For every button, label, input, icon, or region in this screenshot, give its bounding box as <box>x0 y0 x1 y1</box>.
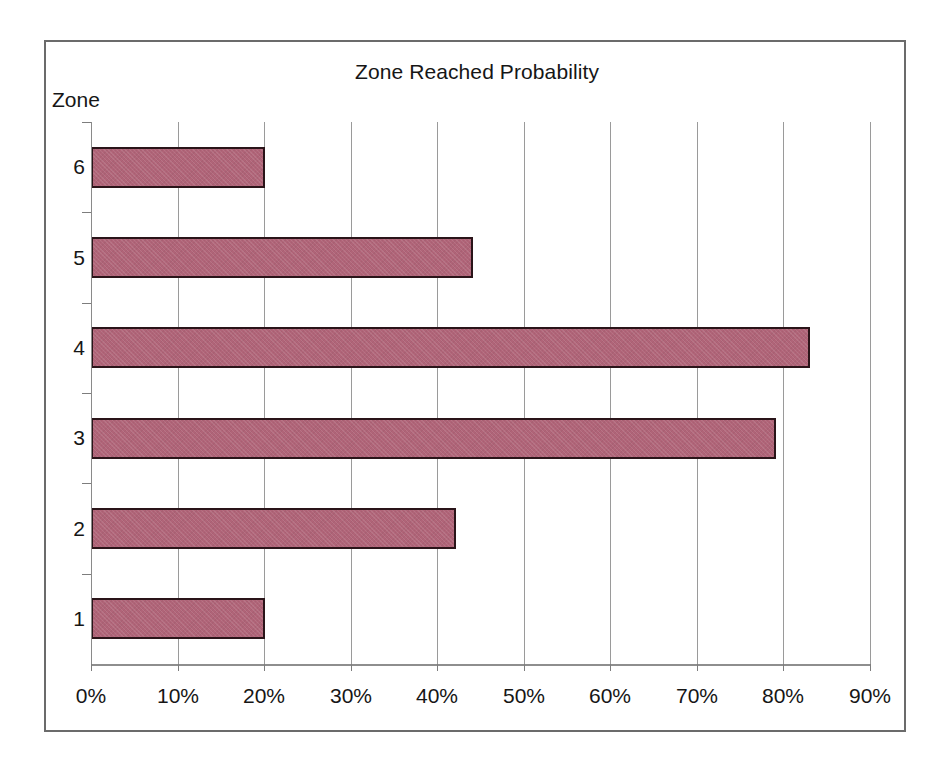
bar-zone-1[interactable] <box>91 598 265 639</box>
gridline-60 <box>610 122 611 664</box>
value-tick <box>610 664 611 671</box>
value-axis-label: 20% <box>229 684 299 708</box>
value-tick <box>91 664 92 671</box>
category-tick <box>82 393 91 394</box>
category-label-5: 5 <box>55 247 85 268</box>
chart-title: Zone Reached Probability <box>46 60 908 84</box>
category-label-3: 3 <box>55 427 85 448</box>
value-axis-label: 10% <box>143 684 213 708</box>
category-label-6: 6 <box>55 156 85 177</box>
category-tick <box>82 483 91 484</box>
category-axis-line <box>91 122 92 664</box>
category-tick <box>82 212 91 213</box>
gridline-20 <box>264 122 265 664</box>
value-tick <box>351 664 352 671</box>
category-axis-caption: Zone <box>52 88 100 112</box>
value-tick <box>783 664 784 671</box>
category-label-4: 4 <box>55 337 85 358</box>
value-tick <box>178 664 179 671</box>
value-axis-label: 70% <box>662 684 732 708</box>
gridline-50 <box>524 122 525 664</box>
value-tick <box>437 664 438 671</box>
value-axis-label: 30% <box>316 684 386 708</box>
value-axis-line <box>91 664 870 666</box>
category-tick <box>82 303 91 304</box>
value-tick <box>524 664 525 671</box>
gridline-80 <box>783 122 784 664</box>
value-axis-label: 0% <box>56 684 126 708</box>
category-label-2: 2 <box>55 518 85 539</box>
value-axis-label: 40% <box>402 684 472 708</box>
bar-zone-5[interactable] <box>91 237 473 278</box>
gridline-10 <box>178 122 179 664</box>
gridline-40 <box>437 122 438 664</box>
value-tick <box>264 664 265 671</box>
plot-area: 123456 <box>91 122 870 664</box>
value-axis-label: 60% <box>575 684 645 708</box>
value-tick <box>870 664 871 671</box>
category-label-1: 1 <box>55 608 85 629</box>
value-axis-label: 90% <box>835 684 905 708</box>
bar-zone-2[interactable] <box>91 508 456 549</box>
gridline-90 <box>870 122 871 664</box>
value-axis-label: 80% <box>748 684 818 708</box>
gridline-70 <box>697 122 698 664</box>
bar-zone-4[interactable] <box>91 327 810 368</box>
gridline-30 <box>351 122 352 664</box>
bar-zone-3[interactable] <box>91 418 776 459</box>
bar-zone-6[interactable] <box>91 147 265 188</box>
chart-frame: Zone Reached Probability Zone 123456 0%1… <box>44 40 906 732</box>
value-tick <box>697 664 698 671</box>
value-axis-label: 50% <box>489 684 559 708</box>
category-tick <box>82 574 91 575</box>
category-tick <box>82 122 91 123</box>
